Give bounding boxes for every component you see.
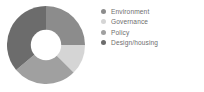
legend-dot-icon <box>101 19 106 24</box>
donut-chart-figure: Environment Governance Policy Design/hou… <box>0 0 204 92</box>
legend-item-label: Environment <box>111 7 149 16</box>
legend-item-label: Policy <box>111 28 129 37</box>
legend-dot-icon <box>101 30 106 35</box>
legend-item-environment[interactable]: Environment <box>101 7 200 16</box>
donut-hole <box>31 30 61 60</box>
legend-dot-icon <box>101 9 106 14</box>
legend-item-design-housing[interactable]: Design/housing <box>101 38 200 47</box>
legend-item-policy[interactable]: Policy <box>101 28 200 37</box>
legend-dot-icon <box>101 40 106 45</box>
legend-item-label: Design/housing <box>111 38 158 47</box>
legend-item-label: Governance <box>111 17 148 26</box>
donut-chart-graphic <box>7 6 85 84</box>
legend-item-governance[interactable]: Governance <box>101 17 200 26</box>
chart-legend: Environment Governance Policy Design/hou… <box>101 7 200 47</box>
